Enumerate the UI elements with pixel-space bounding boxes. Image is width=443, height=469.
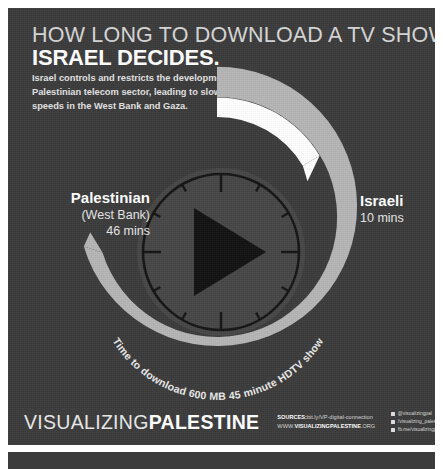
label-palestinian: Palestinian (West Bank) 46 mins	[8, 188, 150, 239]
label-israeli-value: 10 mins	[360, 210, 435, 226]
brand-logo-bold: PALESTINE	[149, 411, 260, 433]
social-twitter-handle: @visualizingpal	[398, 410, 432, 418]
website-domain[interactable]: VISUALIZINGPALESTINE	[294, 423, 360, 429]
brand-logo[interactable]: VISUALIZINGPALESTINE	[24, 411, 259, 434]
social-facebook-handle: fb.me/visualizingpalestine	[398, 426, 435, 434]
sources-block: SOURCES:bit.ly/VP-digital-connection WWW…	[277, 413, 375, 430]
twitter-icon	[391, 412, 395, 416]
facebook-icon	[391, 428, 395, 432]
website-tld: .ORG	[361, 423, 375, 429]
infographic-page: HOW LONG TO DOWNLOAD A TV SHOW? ISRAEL D…	[0, 0, 443, 469]
bottom-strip	[8, 452, 435, 469]
label-palestinian-name: Palestinian	[8, 188, 150, 207]
footer-bar: VISUALIZINGPALESTINE SOURCES:bit.ly/VP-d…	[8, 399, 435, 445]
website-prefix: WWW.	[277, 423, 294, 429]
sources-line-2: WWW.VISUALIZINGPALESTINE.ORG	[277, 422, 375, 431]
sources-line-1: SOURCES:bit.ly/VP-digital-connection	[277, 413, 375, 422]
social-twitter[interactable]: @visualizingpal	[391, 410, 435, 418]
social-facebook[interactable]: fb.me/visualizingpalestine	[391, 426, 435, 434]
label-palestinian-region: (West Bank)	[8, 207, 150, 223]
social-instagram[interactable]: /visualizing_palestine	[391, 418, 435, 426]
infographic-card: HOW LONG TO DOWNLOAD A TV SHOW? ISRAEL D…	[8, 8, 435, 445]
social-links: @visualizingpal /visualizing_palestine f…	[391, 410, 435, 434]
social-instagram-handle: /visualizing_palestine	[398, 418, 435, 426]
brand-logo-light: VISUALIZING	[24, 411, 149, 433]
clock-face	[137, 168, 305, 336]
sources-url[interactable]: bit.ly/VP-digital-connection	[307, 414, 373, 420]
label-israeli-name: Israeli	[360, 191, 435, 210]
instagram-icon	[391, 420, 395, 424]
sources-prefix: SOURCES:	[277, 414, 307, 420]
label-palestinian-value: 46 mins	[8, 223, 150, 239]
label-israeli: Israeli 10 mins	[360, 191, 435, 226]
